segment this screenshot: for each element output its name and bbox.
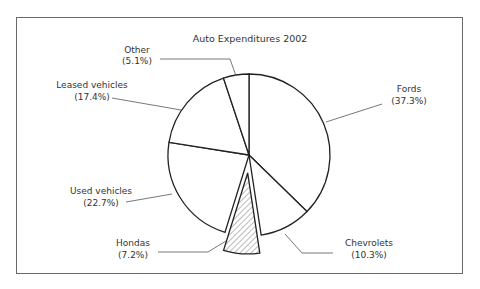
label-hondas-pct: (7.2%) xyxy=(118,250,148,260)
label-fords-name: Fords xyxy=(397,84,422,94)
leader-fords xyxy=(326,104,382,122)
leader-other xyxy=(160,59,236,76)
chart-title: Auto Expenditures 2002 xyxy=(193,33,308,44)
label-fords-pct: (37.3%) xyxy=(391,96,427,106)
leader-leased xyxy=(112,98,181,110)
pie-slices xyxy=(168,74,330,254)
label-other-name: Other xyxy=(124,45,150,55)
label-hondas-name: Hondas xyxy=(116,238,150,248)
pie-chart: Auto Expenditures 2002 Other (5.1%) Leas… xyxy=(0,0,480,289)
leader-hondas xyxy=(158,241,226,252)
leader-chevrolets xyxy=(285,234,333,253)
label-used-name: Used vehicles xyxy=(70,186,132,196)
label-leased-pct: (17.4%) xyxy=(74,92,110,102)
label-other-pct: (5.1%) xyxy=(122,56,152,66)
leader-used xyxy=(126,194,172,202)
label-leased-name: Leased vehicles xyxy=(56,80,128,90)
label-chevrolets-name: Chevrolets xyxy=(345,238,393,248)
label-chevrolets-pct: (10.3%) xyxy=(351,250,387,260)
label-used-pct: (22.7%) xyxy=(83,198,119,208)
